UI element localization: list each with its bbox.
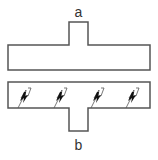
diagram-canvas: a b (0, 0, 158, 160)
top-block (8, 22, 150, 70)
label-a: a (75, 4, 83, 20)
bottom-block (8, 82, 150, 131)
label-b: b (75, 137, 83, 153)
